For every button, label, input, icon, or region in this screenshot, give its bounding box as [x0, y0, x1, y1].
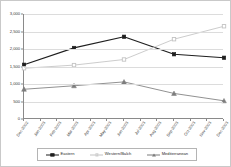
y-axis-tick-label: 1,500 [10, 64, 20, 68]
line-chart: 05001,0001,5002,0002,5003,000 Dec-2002Ja… [0, 0, 231, 167]
gridline [24, 84, 223, 85]
y-axis-tick-label: 2,000 [10, 47, 20, 51]
gridline [24, 32, 223, 33]
series-marker [172, 53, 175, 56]
legend-item[interactable]: Western/Balch [90, 152, 131, 157]
y-axis-tick-label: 1,000 [10, 82, 20, 86]
x-axis-labels: Dec-2002Jan-2003Feb-2003Mar-2003Apr-2003… [23, 121, 223, 149]
series-line [24, 26, 224, 68]
gridline [24, 14, 223, 15]
series-marker [122, 58, 125, 61]
plot-area [23, 14, 223, 119]
y-axis: 05001,0001,5002,0002,5003,000 [1, 14, 23, 119]
gridline [24, 49, 223, 50]
series-marker [222, 25, 225, 28]
series-marker [172, 38, 175, 41]
legend-item[interactable]: Eastern [46, 152, 75, 157]
series-marker [122, 35, 125, 38]
y-axis-tick-label: 0 [18, 117, 20, 121]
gridline [24, 67, 223, 68]
y-axis-tick-label: 2,500 [10, 29, 20, 33]
legend-label: Mediterranean [162, 152, 188, 156]
y-axis-tick-label: 500 [13, 99, 20, 103]
chart-legend: EasternWestern/BalchMediterranean [37, 148, 197, 161]
legend-label: Eastern [60, 152, 74, 156]
legend-swatch-icon [46, 152, 59, 157]
legend-swatch-icon [90, 152, 103, 157]
legend-item[interactable]: Mediterranean [147, 152, 188, 157]
legend-swatch-icon [147, 152, 160, 157]
gridline [24, 102, 223, 103]
y-axis-tick-label: 3,000 [10, 12, 20, 16]
legend-label: Western/Balch [105, 152, 132, 156]
series-marker [222, 56, 225, 59]
